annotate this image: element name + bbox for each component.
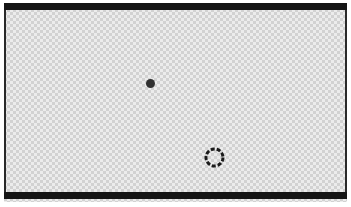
left-frame-edge	[4, 3, 6, 199]
dashed-ring-icon[interactable]	[203, 146, 226, 169]
bottom-frame-bar	[4, 192, 347, 199]
top-frame-bar	[4, 3, 347, 10]
transparent-canvas[interactable]	[4, 3, 347, 202]
canvas-stage	[0, 0, 351, 207]
right-frame-edge	[345, 3, 347, 199]
filled-dot-icon[interactable]	[146, 79, 155, 88]
ring-circle-path	[206, 149, 223, 166]
